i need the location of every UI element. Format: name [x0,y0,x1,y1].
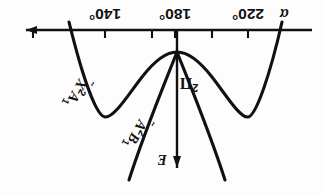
y-axis-label-E: E [157,152,167,167]
x-tick-label-140: 140° [89,6,121,23]
x-tick-label-220: 220° [232,6,264,23]
excited-state-tilde: ̃ [151,122,155,127]
figure-canvas: 220° 180° 140° α E X̃2A1 Ã2B1 [0,0,322,195]
degeneracy-term-pi: Π [179,75,192,92]
walsh-diagram-svg: 220° 180° 140° α E X̃2A1 Ã2B1 [0,0,322,195]
x-axis-arrowhead [26,26,37,34]
rotated-content-group: 220° 180° 140° α E X̃2A1 Ã2B1 [26,6,312,180]
x-axis-label-alpha: α [278,6,288,23]
degeneracy-label-text: 2Π [179,75,198,94]
y-axis-arrowhead [173,156,181,168]
x-axis-tick-labels: 220° 180° 140° [89,6,264,23]
x-tick-label-180: 180° [159,6,191,23]
degeneracy-label: 2Π [179,75,198,94]
